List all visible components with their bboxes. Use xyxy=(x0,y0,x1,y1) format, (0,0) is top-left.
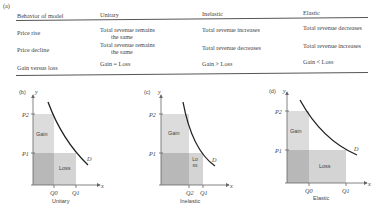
panel-inelastic xyxy=(159,95,229,188)
panel-b-gain: Gain xyxy=(36,131,48,138)
panel-b-p1: P1 xyxy=(22,150,29,157)
panel-d-x-axis: x xyxy=(368,180,371,187)
panel-d-loss: Loss xyxy=(319,163,331,170)
panel-d-p2: P2 xyxy=(275,108,282,115)
panel-unitary xyxy=(31,95,100,188)
panel-b-p2: P2 xyxy=(22,111,29,118)
panel-b-q1: Q1 xyxy=(72,189,80,196)
panel-elastic xyxy=(285,92,367,186)
panel-c-label: (c) xyxy=(144,89,150,96)
panel-d-label: (d) xyxy=(269,88,276,95)
overlap-area xyxy=(33,153,54,185)
panel-d-q0: Q0 xyxy=(305,187,313,194)
panel-c-p1: P1 xyxy=(149,150,156,157)
panel-d-q1: Q1 xyxy=(342,187,350,194)
panel-c-y-axis: y xyxy=(158,88,161,95)
panel-b-x-axis: x xyxy=(101,182,104,189)
panel-c-p2: P2 xyxy=(149,111,156,118)
panel-b-curve-label: D xyxy=(87,155,91,162)
overlap-area xyxy=(161,153,189,185)
panel-c-title: Inelastic xyxy=(180,198,200,205)
panel-c-gain: Gain xyxy=(168,130,180,137)
panel-d-gain: Gain xyxy=(290,128,302,135)
panel-c-q1: Q1 xyxy=(200,189,208,196)
panel-c-q2: Q2 xyxy=(186,189,194,196)
overlap-area xyxy=(287,150,309,183)
panel-b-label: (b) xyxy=(19,89,26,96)
panel-b-loss: Loss xyxy=(59,165,71,172)
panel-c-curve-label: D xyxy=(212,156,216,163)
panel-d-p1: P1 xyxy=(275,147,282,154)
panel-b-q0: Q0 xyxy=(50,189,58,196)
panel-c-loss: Loss xyxy=(192,157,198,168)
panel-b-y-axis: y xyxy=(35,88,38,95)
panel-d-title: Elastic xyxy=(313,195,329,202)
panel-b-title: Unitary xyxy=(52,198,69,205)
panel-c-x-axis: x xyxy=(230,182,233,189)
panel-d-y-axis: y xyxy=(283,87,286,94)
panel-d-curve-label: D xyxy=(354,145,358,152)
